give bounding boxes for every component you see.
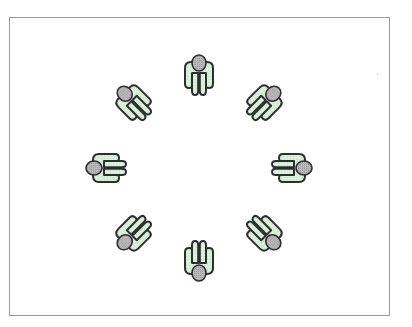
person-icon (109, 210, 157, 258)
person-icon (109, 78, 157, 126)
person-right-figure (272, 154, 312, 182)
person-top-left-figure (109, 78, 157, 126)
person-left-figure (86, 154, 126, 182)
person-bottom-right-figure (241, 210, 289, 258)
person-bottom-left-figure (109, 210, 157, 258)
person-icon (185, 241, 213, 281)
people-circle-diagram (0, 0, 412, 327)
person-icon (185, 55, 213, 95)
person-icon (241, 78, 289, 126)
person-bottom-figure (185, 241, 213, 281)
person-top-figure (185, 55, 213, 95)
person-icon (272, 154, 312, 182)
person-icon (241, 210, 289, 258)
person-top-right-figure (241, 78, 289, 126)
person-icon (86, 154, 126, 182)
